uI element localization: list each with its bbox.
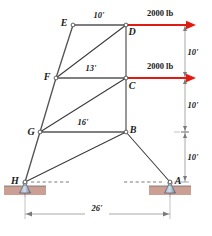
member-GH: [25, 132, 40, 182]
span-H-to-A-arrow-left: [26, 212, 32, 217]
member-EF: [56, 25, 73, 78]
node-label-C: C: [129, 80, 136, 91]
lower-chord-length: 16': [78, 117, 90, 127]
applied-forces: 2000 lb2000 lb: [126, 8, 196, 82]
height-C-to-B-arrow-bottom: [183, 126, 187, 131]
node-label-H: H: [10, 175, 20, 186]
span-H-to-A-label: 26': [91, 203, 104, 213]
member-BA: [126, 132, 170, 182]
joint-B: [124, 130, 128, 134]
force-at-C-label: 2000 lb: [147, 61, 173, 71]
force-at-D-arrowhead: [186, 21, 196, 29]
middle-chord-length: 13': [86, 63, 98, 73]
node-label-F: F: [43, 71, 51, 82]
member-HB: [25, 132, 126, 182]
joint-E: [71, 23, 75, 27]
top-chord-length: 10': [94, 10, 106, 20]
height-B-to-A-arrow-bottom: [183, 176, 187, 181]
span-H-to-A-arrow-right: [163, 212, 169, 217]
node-label-B: B: [129, 124, 137, 135]
labels-layer: EDFCGBHA: [10, 17, 182, 186]
joint-F: [54, 76, 58, 80]
height-D-to-C-label: 10': [188, 47, 200, 57]
joint-G: [38, 130, 42, 134]
truss-diagram: 10'10'10'26' 10'13'16' 2000 lb2000 lb ED…: [0, 0, 212, 236]
joint-A: [168, 180, 172, 184]
force-at-D-label: 2000 lb: [147, 8, 173, 18]
height-B-to-A-label: 10': [188, 152, 200, 162]
truss-members: 10'13'16': [25, 10, 170, 182]
node-label-E: E: [60, 17, 68, 28]
height-C-to-B-label: 10': [188, 100, 200, 110]
joint-H: [23, 180, 27, 184]
force-at-C-arrowhead: [186, 74, 196, 82]
ground-layer: [4, 186, 191, 197]
node-label-A: A: [174, 175, 182, 186]
node-label-G: G: [27, 126, 35, 137]
height-B-to-A-arrow-top: [183, 133, 187, 138]
joint-C: [124, 76, 128, 80]
node-label-D: D: [127, 26, 135, 37]
figure-canvas: 10'10'10'26' 10'13'16' 2000 lb2000 lb ED…: [0, 0, 212, 236]
joint-D: [124, 23, 128, 27]
